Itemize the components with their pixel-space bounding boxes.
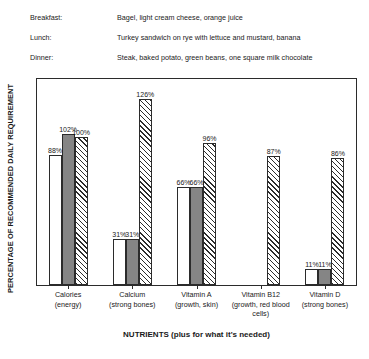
bar-slot: 88% bbox=[49, 78, 62, 285]
plot-area: 88%102%100%31%31%126%66%66%96%87%11%11%8… bbox=[36, 78, 357, 285]
bar-value-label: 100% bbox=[72, 129, 90, 136]
category-label-line: Vitamin D bbox=[289, 290, 361, 300]
bar-gray[interactable] bbox=[126, 239, 139, 285]
meal-row: Lunch: Turkey sandwich on rye with lettu… bbox=[0, 33, 369, 53]
meal-label-breakfast: Breakfast: bbox=[30, 13, 62, 22]
bar-slot: 31% bbox=[113, 78, 126, 285]
bar-hatched[interactable] bbox=[331, 158, 344, 285]
category-label-line: Vitamin A bbox=[160, 290, 232, 300]
bar-hatched[interactable] bbox=[75, 137, 88, 285]
bar-value-label: 11% bbox=[318, 261, 332, 268]
x-axis-tick bbox=[261, 285, 262, 289]
bar-hatched[interactable] bbox=[203, 143, 216, 285]
category-label-line: (growth, red blood bbox=[225, 300, 297, 310]
category-label-line: cells) bbox=[225, 309, 297, 319]
x-axis-category-label: Calcium(strong bones) bbox=[96, 290, 168, 309]
category-label-line: Vitamin B12 bbox=[225, 290, 297, 300]
bar-slot bbox=[254, 78, 267, 285]
bar-value-label: 126% bbox=[136, 91, 154, 98]
bar-slot: 102% bbox=[62, 78, 75, 285]
meal-label-dinner: Dinner: bbox=[30, 53, 53, 62]
bar-slot: 11% bbox=[305, 78, 318, 285]
x-axis-tick bbox=[68, 285, 69, 289]
bar-slot: 66% bbox=[177, 78, 190, 285]
bar-slot bbox=[241, 78, 254, 285]
bar-value-label: 31% bbox=[125, 231, 139, 238]
bar-group-bars: 88%102%100% bbox=[49, 78, 88, 285]
bar-slot: 96% bbox=[203, 78, 216, 285]
bar-hatched[interactable] bbox=[139, 99, 152, 285]
bar-value-label: 66% bbox=[176, 179, 190, 186]
bar-hatched[interactable] bbox=[267, 156, 280, 285]
bar-group-bars: 31%31%126% bbox=[113, 78, 152, 285]
category-label-line: Calcium bbox=[96, 290, 168, 300]
bar-group-bars: 66%66%96% bbox=[177, 78, 216, 285]
category-label-line: (strong bones) bbox=[96, 300, 168, 310]
meal-summary-table: Breakfast: Bagel, light cream cheese, or… bbox=[0, 0, 369, 72]
meal-label-lunch: Lunch: bbox=[30, 33, 52, 42]
meal-row: Breakfast: Bagel, light cream cheese, or… bbox=[0, 13, 369, 33]
meal-value-dinner: Steak, baked potato, green beans, one sq… bbox=[117, 53, 312, 62]
bar-slot: 11% bbox=[318, 78, 331, 285]
y-axis-title: PERCENTAGE OF RECOMMENDED DAILY REQUIREM… bbox=[6, 83, 15, 295]
bar-gray[interactable] bbox=[318, 269, 331, 285]
bar-white[interactable] bbox=[305, 269, 318, 285]
bar-slot: 31% bbox=[126, 78, 139, 285]
category-label-line: Calories bbox=[32, 290, 104, 300]
x-axis-category-label: Vitamin D(strong bones) bbox=[289, 290, 361, 309]
bar-white[interactable] bbox=[49, 155, 62, 285]
bar-gray[interactable] bbox=[190, 187, 203, 285]
bar-gray[interactable] bbox=[62, 134, 75, 285]
x-axis-tick bbox=[132, 285, 133, 289]
bar-white[interactable] bbox=[113, 239, 126, 285]
bar-value-label: 11% bbox=[305, 261, 319, 268]
x-axis-category-label: Vitamin A(growth, skin) bbox=[160, 290, 232, 309]
bar-slot: 126% bbox=[139, 78, 152, 285]
bar-slot: 100% bbox=[75, 78, 88, 285]
x-axis-tick bbox=[197, 285, 198, 289]
bar-group-bars: 87% bbox=[241, 78, 280, 285]
bar-value-label: 31% bbox=[112, 231, 126, 238]
bar-slot: 87% bbox=[267, 78, 280, 285]
x-axis-category-label: Vitamin B12(growth, red bloodcells) bbox=[225, 290, 297, 319]
x-axis-title: NUTRIENTS (plus for what it's needed) bbox=[36, 330, 357, 339]
bar-group-bars: 11%11%86% bbox=[305, 78, 344, 285]
bar-slot: 86% bbox=[331, 78, 344, 285]
meal-row: Dinner: Steak, baked potato, green beans… bbox=[0, 53, 369, 73]
bar-value-label: 86% bbox=[331, 150, 345, 157]
meal-value-lunch: Turkey sandwich on rye with lettuce and … bbox=[117, 33, 301, 42]
x-axis-tick bbox=[325, 285, 326, 289]
bar-value-label: 66% bbox=[189, 179, 203, 186]
bar-chart: PERCENTAGE OF RECOMMENDED DAILY REQUIREM… bbox=[0, 72, 369, 359]
bar-white[interactable] bbox=[177, 187, 190, 285]
bar-slot: 66% bbox=[190, 78, 203, 285]
meal-value-breakfast: Bagel, light cream cheese, orange juice bbox=[117, 13, 243, 22]
bar-value-label: 88% bbox=[48, 147, 62, 154]
bar-value-label: 96% bbox=[202, 135, 216, 142]
category-label-line: (energy) bbox=[32, 300, 104, 310]
x-axis-category-label: Calories(energy) bbox=[32, 290, 104, 309]
bar-value-label: 87% bbox=[267, 148, 281, 155]
category-label-line: (strong bones) bbox=[289, 300, 361, 310]
category-label-line: (growth, skin) bbox=[160, 300, 232, 310]
